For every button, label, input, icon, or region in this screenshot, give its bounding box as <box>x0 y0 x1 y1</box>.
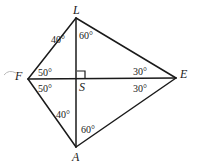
angle-SEA: 30° <box>133 84 147 94</box>
segment-A-E <box>76 78 176 147</box>
segment-F-L <box>28 18 76 79</box>
diagonal-F-E <box>28 78 176 79</box>
vertex-label-S: S <box>79 81 85 93</box>
marker-group <box>77 71 85 79</box>
vertex-label-L: L <box>73 4 80 16</box>
segment-L-E <box>76 18 176 78</box>
geometry-figure: LFEAS 40°60°50°50°30°30°40°60° <box>0 0 198 168</box>
figure-canvas <box>0 0 198 168</box>
angle-LFS: 50° <box>38 68 52 78</box>
angle-FLS: 40° <box>51 35 65 45</box>
vertex-label-F: F <box>15 70 22 82</box>
angle-LES: 30° <box>133 67 147 77</box>
angle-SFA: 50° <box>38 84 52 94</box>
vertex-label-E: E <box>180 68 187 80</box>
vertex-label-A: A <box>72 151 79 163</box>
right-angle-marker-S <box>77 71 85 79</box>
angle-FAS: 40° <box>56 110 70 120</box>
angle-SAE: 60° <box>81 125 95 135</box>
angle-SLE: 60° <box>79 31 93 41</box>
